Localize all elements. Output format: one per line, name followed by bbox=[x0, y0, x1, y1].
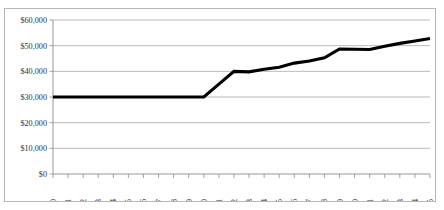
x-axis-tick-label: 2006 bbox=[290, 199, 299, 201]
x-axis-tick-label: 2014 bbox=[411, 199, 420, 201]
x-axis-tick-label: 1997 bbox=[155, 199, 164, 201]
x-axis-tick-label: 2003 bbox=[245, 199, 254, 201]
x-axis-tick-label: 2015 bbox=[426, 199, 435, 201]
x-axis-tick-label: 2012 bbox=[381, 199, 390, 201]
data-series-line bbox=[53, 38, 430, 97]
chart-plot-frame: $0$10,000$20,000$30,000$40,000$50,000$60… bbox=[4, 8, 436, 202]
x-axis-tick-label: 2007 bbox=[305, 199, 314, 201]
x-axis-tick-label: 2011 bbox=[366, 199, 375, 201]
y-axis-tick-label: $60,000 bbox=[20, 16, 47, 25]
y-axis-tick-label: $30,000 bbox=[20, 93, 47, 102]
chart-figure: $0$10,000$20,000$30,000$40,000$50,000$60… bbox=[0, 0, 444, 210]
x-axis-tick-label: 2009 bbox=[336, 199, 345, 201]
x-axis-tick-label: 1999 bbox=[185, 199, 194, 201]
x-axis-tick-label: 2004 bbox=[260, 199, 269, 201]
x-axis-tick-label: 1996 bbox=[139, 199, 148, 201]
x-axis-tick-label: 1990 bbox=[49, 199, 58, 201]
x-axis-tick-label: 1992 bbox=[79, 199, 88, 201]
x-axis-tick-label: 1991 bbox=[64, 199, 73, 201]
x-axis-tick-label: 2013 bbox=[396, 199, 405, 201]
x-axis-tick-label: 1993 bbox=[94, 199, 103, 201]
line-chart-svg: $0$10,000$20,000$30,000$40,000$50,000$60… bbox=[5, 9, 435, 201]
y-axis-tick-label: $0 bbox=[39, 170, 47, 179]
x-axis-tick-label: 1994 bbox=[109, 199, 118, 201]
y-axis-tick-label: $20,000 bbox=[20, 119, 47, 128]
x-axis-tick-label: 1995 bbox=[124, 199, 133, 201]
x-axis-tick-label: 2008 bbox=[320, 199, 329, 201]
chart-title-cropped bbox=[0, 0, 444, 7]
x-axis-tick-label: 2002 bbox=[230, 199, 239, 201]
x-axis-tick-label: 2010 bbox=[351, 199, 360, 201]
y-axis-tick-label: $50,000 bbox=[20, 42, 47, 51]
x-axis-tick-label: 2001 bbox=[215, 199, 224, 201]
x-axis-tick-label: 2000 bbox=[200, 199, 209, 201]
x-axis-tick-label: 1998 bbox=[170, 199, 179, 201]
y-axis-tick-label: $40,000 bbox=[20, 67, 47, 76]
y-axis-tick-label: $10,000 bbox=[20, 144, 47, 153]
x-axis-tick-label: 2005 bbox=[275, 199, 284, 201]
